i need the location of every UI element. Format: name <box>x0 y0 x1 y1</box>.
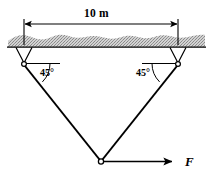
right-support-triangle <box>170 48 186 64</box>
force-label-F: F <box>185 155 194 168</box>
right-angle-label: 45° <box>136 68 150 78</box>
ground-band <box>7 35 206 47</box>
dimension-label-10m: 10 m <box>84 8 109 20</box>
right-member <box>103 66 178 160</box>
left-angle-label: 45° <box>40 68 54 78</box>
ground-hatch-fill <box>8 35 205 47</box>
truss-members <box>25 66 177 160</box>
apex-joint <box>98 159 103 164</box>
truss-diagram: 10 m 45° 45° F <box>0 0 209 178</box>
left-support-triangle <box>16 48 32 64</box>
figure-canvas <box>0 0 209 178</box>
left-member <box>25 66 100 160</box>
right-angle-arc <box>152 64 160 82</box>
